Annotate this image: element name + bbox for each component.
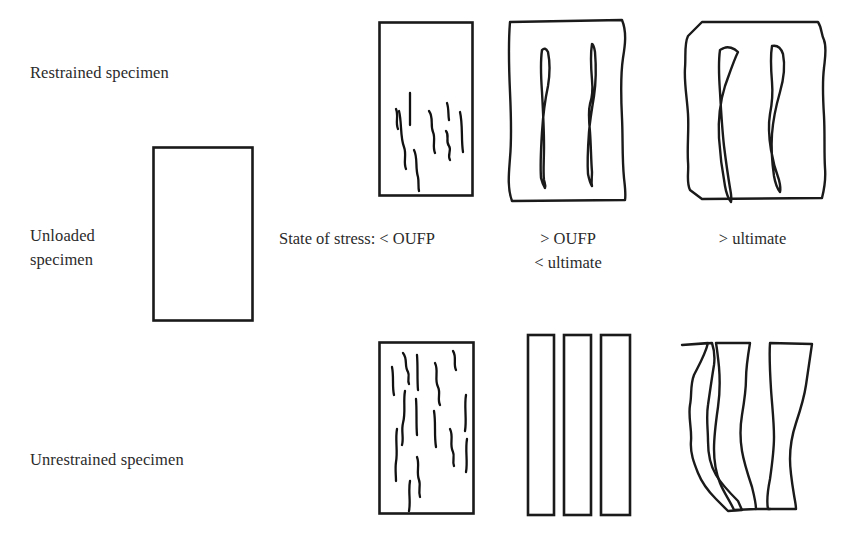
unrestrained-below-oufp-panel bbox=[376, 339, 480, 519]
row-label-restrained: Restrained specimen bbox=[30, 61, 169, 85]
caption-column-below-oufp: State of stress: < OUFP bbox=[279, 227, 435, 251]
crack-lens-right bbox=[588, 44, 596, 186]
crack-open-left bbox=[719, 47, 738, 202]
restrained-above-ultimate-drawing bbox=[672, 12, 832, 210]
specimen-outline bbox=[380, 343, 474, 514]
specimen-cracking-figure: Restrained specimen Unloaded specimen Un… bbox=[0, 0, 856, 539]
slab-left bbox=[528, 335, 554, 515]
restrained-above-oufp-panel bbox=[496, 12, 638, 208]
unrestrained-above-ultimate-panel bbox=[672, 333, 832, 529]
microcrack-group bbox=[396, 93, 463, 191]
specimen-outline bbox=[685, 22, 826, 199]
specimen-outline bbox=[380, 23, 473, 196]
row-label-unloaded: Unloaded specimen bbox=[30, 224, 95, 272]
crack-open-right bbox=[769, 46, 784, 192]
unrestrained-above-oufp-panel bbox=[524, 331, 636, 521]
row-label-unrestrained: Unrestrained specimen bbox=[30, 448, 184, 472]
unloaded-specimen-panel bbox=[150, 144, 258, 328]
unrestrained-below-oufp-drawing bbox=[376, 339, 480, 519]
unrestrained-above-ultimate-drawing bbox=[672, 333, 832, 529]
caption-column-above-oufp: > OUFP < ultimate bbox=[508, 227, 628, 275]
fragment-right bbox=[767, 343, 812, 509]
caption-column-above-ultimate: > ultimate bbox=[680, 227, 825, 251]
fragment-middle bbox=[714, 343, 756, 510]
unloaded-specimen-drawing bbox=[150, 144, 258, 328]
specimen-outline bbox=[509, 20, 626, 201]
slab-middle bbox=[564, 335, 591, 515]
restrained-above-oufp-drawing bbox=[496, 12, 638, 208]
unrestrained-above-oufp-drawing bbox=[524, 331, 636, 521]
restrained-below-oufp-panel bbox=[376, 19, 478, 201]
fragment-left bbox=[682, 343, 742, 511]
microcrack-group bbox=[392, 351, 467, 511]
crack-lens-left bbox=[541, 49, 550, 188]
unloaded-specimen-outline bbox=[154, 148, 253, 321]
slab-right bbox=[601, 335, 630, 515]
restrained-above-ultimate-panel bbox=[672, 12, 832, 210]
restrained-below-oufp-drawing bbox=[376, 19, 478, 201]
